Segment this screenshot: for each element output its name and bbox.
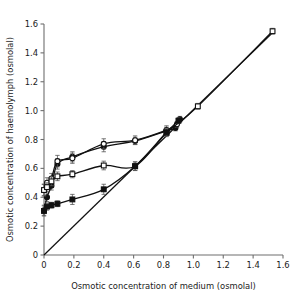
y-axis-title: Osmotic concentration of haemolymph (osm…: [5, 37, 15, 242]
x-tick-label: 1.4: [246, 260, 259, 270]
y-tick-label: 0.8: [25, 135, 38, 145]
open-circle-series-line: [44, 124, 177, 190]
open-square-marker: [49, 179, 54, 184]
open-circle-marker: [133, 138, 138, 143]
open-square-series-line: [44, 31, 273, 190]
osmoregulation-scatter-chart: 00.20.40.60.81.01.21.41.600.20.40.60.81.…: [0, 0, 294, 303]
open-circle-marker: [70, 156, 75, 161]
x-tick-label: 1.0: [187, 260, 200, 270]
x-tick-label: 0.6: [127, 260, 140, 270]
filled-square-marker: [176, 118, 181, 123]
open-circle-marker: [55, 159, 60, 164]
open-square-marker: [101, 163, 106, 168]
filled-square-marker: [55, 201, 60, 206]
chart-figure: 00.20.40.60.81.01.21.41.600.20.40.60.81.…: [0, 0, 294, 303]
y-tick-label: 1.6: [25, 19, 38, 29]
x-tick-label: 1.2: [217, 260, 230, 270]
open-square-marker: [45, 185, 50, 190]
filled-square-marker: [49, 203, 54, 208]
filled-square-marker: [164, 130, 169, 135]
open-square-marker: [55, 174, 60, 179]
open-square-marker: [195, 104, 200, 109]
filled-square-marker: [133, 164, 138, 169]
x-tick-label: 0.2: [67, 260, 80, 270]
y-tick-label: 1.0: [25, 106, 38, 116]
x-tick-label: 0.8: [157, 260, 170, 270]
filled-square-marker: [70, 197, 75, 202]
x-tick-label: 1.6: [276, 260, 289, 270]
filled-square-marker: [101, 187, 106, 192]
x-tick-label: 0.4: [97, 260, 110, 270]
y-tick-label: 0.4: [25, 192, 38, 202]
x-axis-title: Osmotic concentration of medium (osmolal…: [71, 281, 256, 291]
open-square-marker: [70, 172, 75, 177]
y-tick-label: 1.2: [25, 77, 38, 87]
open-circle-marker: [101, 141, 106, 146]
x-tick-label: 0: [41, 260, 46, 270]
open-square-marker: [270, 29, 275, 34]
y-tick-label: 0.6: [25, 163, 38, 173]
y-tick-label: 0.2: [25, 221, 38, 231]
y-tick-label: 1.4: [25, 48, 38, 58]
y-tick-label: 0: [33, 250, 38, 260]
